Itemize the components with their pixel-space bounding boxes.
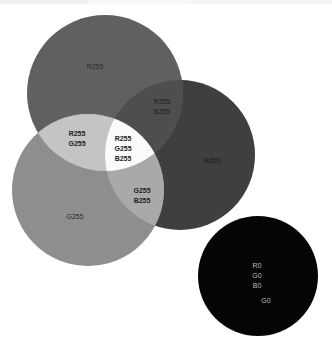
label-center-g: G255 [114, 145, 131, 152]
label-red-blue-r: R255 [154, 98, 171, 105]
label-green-blue-b: B255 [134, 197, 151, 204]
label-black-b: B0 [253, 282, 262, 289]
label-red: R255 [87, 63, 104, 70]
label-green-blue-g: G255 [133, 187, 150, 194]
label-center-r: R255 [115, 135, 132, 142]
label-red-green-g: G255 [68, 140, 85, 147]
label-black-r: R0 [253, 262, 262, 269]
label-red-blue-b: B255 [154, 108, 170, 115]
label-green: G255 [66, 213, 83, 220]
label-blue: B255 [204, 157, 220, 164]
label-center-b: B255 [115, 155, 132, 162]
venn-diagram: R255 R255 B255 B255 R255 G255 R255 G255 … [0, 0, 332, 353]
label-red-green-r: R255 [69, 130, 86, 137]
label-black-g-extra: G0 [261, 297, 270, 304]
label-black-g: G0 [252, 272, 261, 279]
